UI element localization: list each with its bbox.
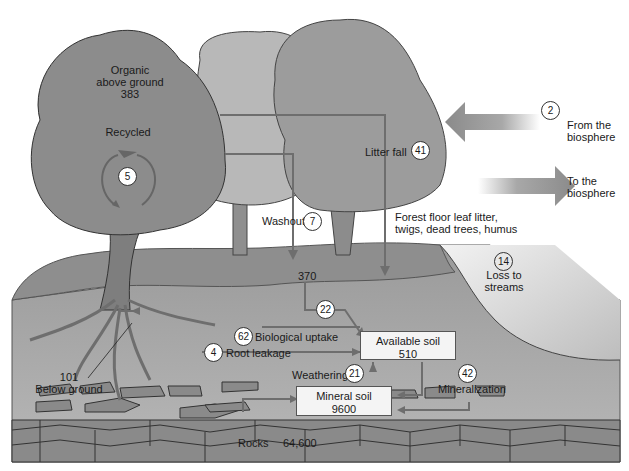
available-soil-label: Available soil [361,335,455,348]
weathering-value-badge: 21 [345,364,364,383]
forest-floor-line1: Forest floor leaf litter, [395,211,517,223]
mineral-soil-value: 9600 [297,403,391,416]
biological-uptake-label: Biological uptake [255,331,338,343]
rocks-label: Rocks [238,437,269,449]
rocks-value: 64,600 [283,437,317,449]
to-biosphere-arrow [478,166,575,206]
recycled-value-badge: 5 [118,167,137,186]
organic-above-ground-value: 383 [90,88,170,100]
mineral-soil-box: Mineral soil 9600 [296,386,392,416]
from-biosphere-line1: From the [567,119,615,131]
loss-to-streams-line2: streams [480,281,528,293]
from-biosphere-label: From the biosphere [567,119,615,143]
available-soil-value: 510 [361,348,455,361]
forest-floor-to-soil-value-badge: 22 [316,300,335,319]
washout-value-badge: 7 [303,212,322,231]
below-ground-value: 101 [34,371,104,383]
root-leakage-label: Root leakage [226,347,291,359]
organic-above-ground-label: Organic above ground 383 [90,64,170,100]
from-biosphere-arrow [445,102,540,142]
below-ground-line: Below ground [34,383,104,395]
mineralization-label: Mineralization [438,383,506,395]
from-biosphere-value-badge: 2 [541,101,560,120]
washout-label: Washout [262,215,305,227]
to-biosphere-line2: biosphere [567,187,615,199]
below-ground-label: 101 Below ground [34,371,104,395]
forest-floor-label: Forest floor leaf litter, twigs, dead tr… [395,211,517,235]
forest-floor-value: 370 [298,270,316,282]
root-leakage-value-badge: 4 [204,343,223,362]
organic-label-line1: Organic [90,64,170,76]
forest-floor-line2: twigs, dead trees, humus [395,223,517,235]
litter-fall-label: Litter fall [365,146,407,158]
to-biosphere-line1: To the [567,175,615,187]
from-biosphere-line2: biosphere [567,131,615,143]
recycled-label: Recycled [100,126,156,138]
loss-to-streams-line1: Loss to [480,269,528,281]
mineralization-value-badge: 42 [458,364,477,383]
litter-fall-value-badge: 41 [411,141,430,160]
weathering-label: Weathering [292,369,348,381]
mineral-soil-label: Mineral soil [297,390,391,403]
organic-label-line2: above ground [90,76,170,88]
loss-to-streams-label: Loss to streams [480,269,528,293]
available-soil-box: Available soil 510 [360,331,456,360]
biological-uptake-value-badge: 62 [234,327,253,346]
to-biosphere-label: To the biosphere [567,175,615,199]
